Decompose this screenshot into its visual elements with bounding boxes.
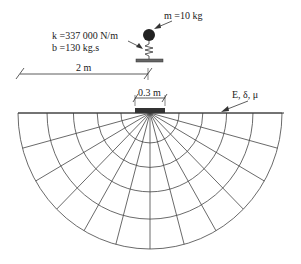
mass-label: m =10 kg <box>164 10 202 21</box>
damping-label: b =130 kg.s <box>52 42 99 53</box>
soil-mesh <box>18 113 282 249</box>
stiffness-label: k =337 000 N/m <box>52 30 118 41</box>
distance-label: 2 m <box>76 62 91 73</box>
footing-plate <box>135 108 165 113</box>
base-plate <box>136 59 163 62</box>
footing-width-label: 0.3 m <box>138 87 161 98</box>
soil-properties-label: E, δ, μ <box>232 89 258 100</box>
half-space-mesh-diagram <box>0 0 301 264</box>
spring-icon <box>145 41 153 59</box>
mass-icon <box>143 29 155 41</box>
